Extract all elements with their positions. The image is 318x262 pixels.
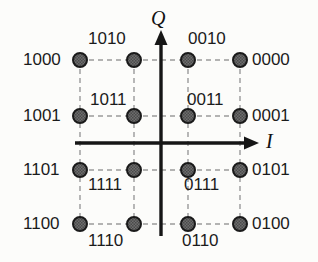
symbol-label: 1110 xyxy=(88,232,123,250)
axis-lines xyxy=(75,30,259,236)
constellation-point xyxy=(73,163,87,177)
constellation-point xyxy=(73,53,87,67)
symbol-label: 0010 xyxy=(188,30,226,48)
constellation-point xyxy=(73,109,87,123)
symbol-label: 0011 xyxy=(187,91,224,109)
symbol-label: 0001 xyxy=(252,107,290,125)
symbol-label: 0000 xyxy=(252,51,290,69)
constellation-point xyxy=(181,109,195,123)
symbol-label: 1001 xyxy=(23,107,61,125)
symbol-label: 1101 xyxy=(23,161,60,179)
constellation-point xyxy=(233,217,247,231)
constellation-point xyxy=(127,109,141,123)
constellation-point xyxy=(181,53,195,67)
constellation-point xyxy=(127,163,141,177)
symbol-label: 1000 xyxy=(23,51,61,69)
constellation-point xyxy=(127,53,141,67)
constellation-point xyxy=(233,109,247,123)
symbol-label: 1011 xyxy=(90,91,127,109)
symbol-label: 0111 xyxy=(184,176,219,194)
constellation-point xyxy=(73,217,87,231)
constellation-figure: 1000101000100000100110110011000111011111… xyxy=(0,0,318,262)
quadrature-axis-label: Q xyxy=(151,8,165,28)
constellation-point xyxy=(233,53,247,67)
quadrature-axis-arrowhead xyxy=(155,30,168,45)
symbol-label: 1010 xyxy=(88,30,126,48)
in-phase-axis-arrowhead xyxy=(244,137,259,150)
symbol-label: 0101 xyxy=(252,161,290,179)
constellation-point xyxy=(181,217,195,231)
symbol-label: 0100 xyxy=(252,215,290,233)
symbol-label: 1100 xyxy=(23,215,60,233)
constellation-point xyxy=(127,217,141,231)
constellation-point xyxy=(233,163,247,177)
in-phase-axis-label: I xyxy=(266,131,273,151)
symbol-label: 1111 xyxy=(88,176,122,194)
symbol-label: 0110 xyxy=(182,232,219,250)
